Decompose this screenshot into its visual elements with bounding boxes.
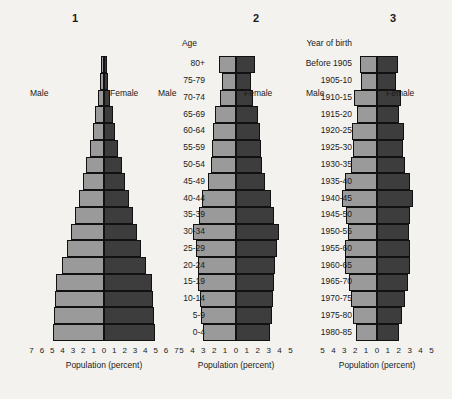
pyramid-2-row-30-34 bbox=[186, 224, 338, 241]
pyramid-2-row-20-24 bbox=[186, 257, 338, 274]
bar-female-20-24 bbox=[104, 257, 146, 274]
bar-female-50-54 bbox=[104, 157, 122, 174]
pyramid-2-row-25-29 bbox=[186, 240, 338, 257]
pyramid-panel-1: 1 Male Female 765432101234567 Population… bbox=[0, 0, 186, 399]
pyramid-1-row-40-44 bbox=[0, 190, 186, 207]
age-group-label-11: 25-29 bbox=[183, 243, 205, 253]
bar-male-25-29 bbox=[67, 240, 104, 257]
bar-female-20-24 bbox=[377, 257, 410, 274]
panel-2-title: 2 bbox=[180, 12, 332, 24]
pyramid-2-tick-7: 2 bbox=[253, 346, 262, 355]
pyramid-1-tick-1: 6 bbox=[37, 346, 46, 355]
pyramid-3-tick-6: 1 bbox=[383, 346, 392, 355]
bar-female-10-14 bbox=[377, 291, 405, 308]
year-of-birth-label-13: 1965-70 bbox=[321, 276, 352, 286]
bar-male-15-19 bbox=[56, 274, 104, 291]
pyramid-3-tick-1: 4 bbox=[329, 346, 338, 355]
pyramid-2-tick-6: 1 bbox=[242, 346, 251, 355]
pyramid-1-tick-10: 3 bbox=[130, 346, 139, 355]
panel-1-title: 1 bbox=[0, 12, 168, 24]
pyramid-2-tick-1: 4 bbox=[188, 346, 197, 355]
year-of-birth-label-12: 1960-65 bbox=[321, 260, 352, 270]
pyramid-1-row-50-54 bbox=[0, 157, 186, 174]
bar-female-35-39 bbox=[104, 207, 133, 224]
pyramid-1-tick-9: 2 bbox=[120, 346, 129, 355]
bar-female-60-64 bbox=[377, 123, 404, 140]
pyramid-1-tick-7: 0 bbox=[99, 346, 108, 355]
pyramid-1-axis-ticks: 765432101234567 bbox=[27, 346, 181, 355]
bar-female-20-24 bbox=[236, 257, 275, 274]
age-group-label-2: 70-74 bbox=[183, 92, 205, 102]
pyramid-3-row-65-69 bbox=[338, 106, 452, 123]
bar-female-25-29 bbox=[104, 240, 141, 257]
pyramid-1-tick-6: 1 bbox=[89, 346, 98, 355]
bar-male-15-19 bbox=[349, 274, 377, 291]
age-group-label-8: 40-44 bbox=[183, 193, 205, 203]
bar-male-45-49 bbox=[208, 173, 236, 190]
pyramid-3-row-30-34 bbox=[338, 224, 452, 241]
pyramid-3-row-15-19 bbox=[338, 274, 452, 291]
bar-male-45-49 bbox=[83, 173, 104, 190]
pyramid-1-tick-2: 5 bbox=[48, 346, 57, 355]
bar-male-10-14 bbox=[55, 291, 104, 308]
bar-female-5-9 bbox=[104, 307, 154, 324]
pyramid-3-plot bbox=[338, 56, 452, 341]
pyramid-3-tick-0: 5 bbox=[318, 346, 327, 355]
age-group-label-15: 5-9 bbox=[193, 310, 205, 320]
pyramid-1-row-10-14 bbox=[0, 291, 186, 308]
bar-female-0-4 bbox=[377, 324, 399, 341]
bar-female-60-64 bbox=[104, 123, 115, 140]
pyramid-1-row-35-39 bbox=[0, 207, 186, 224]
bar-female-55-59 bbox=[104, 140, 118, 157]
age-group-label-16: 0-4 bbox=[193, 327, 205, 337]
year-of-birth-label-8: 1940-45 bbox=[321, 193, 352, 203]
year-of-birth-label-11: 1955-60 bbox=[321, 243, 352, 253]
pyramid-3-tick-9: 4 bbox=[416, 346, 425, 355]
age-column-header: Age bbox=[182, 38, 197, 48]
pyramid-3-tick-2: 3 bbox=[340, 346, 349, 355]
pyramid-1-male-label: Male bbox=[30, 88, 48, 98]
pyramid-1-row-60-64 bbox=[0, 123, 186, 140]
pyramid-1-row-15-19 bbox=[0, 274, 186, 291]
pyramid-2-tick-3: 2 bbox=[210, 346, 219, 355]
bar-female-65-69 bbox=[377, 106, 399, 123]
panel-3-title: 3 bbox=[336, 12, 450, 24]
bar-male-55-59 bbox=[212, 140, 236, 157]
pyramid-3-row-0-4 bbox=[338, 324, 452, 341]
bar-female-35-39 bbox=[377, 207, 410, 224]
bar-female-25-29 bbox=[236, 240, 277, 257]
age-group-label-6: 50-54 bbox=[183, 159, 205, 169]
pyramid-1-row-20-24 bbox=[0, 257, 186, 274]
pyramid-1-row-5-9 bbox=[0, 307, 186, 324]
pyramid-2-tick-4: 1 bbox=[221, 346, 230, 355]
bar-female-0-4 bbox=[104, 324, 155, 341]
pyramid-3-row-25-29 bbox=[338, 240, 452, 257]
pyramid-1-row-65-69 bbox=[0, 106, 186, 123]
year-of-birth-label-9: 1945-50 bbox=[321, 209, 352, 219]
pyramid-3-tick-5: 0 bbox=[372, 346, 381, 355]
bar-male-75-79 bbox=[222, 73, 236, 90]
pyramid-3-tick-10: 5 bbox=[427, 346, 436, 355]
bar-female-35-39 bbox=[236, 207, 274, 224]
pyramid-2-tick-9: 4 bbox=[275, 346, 284, 355]
age-group-label-3: 65-69 bbox=[183, 109, 205, 119]
pyramid-2-female-label: Female bbox=[244, 88, 272, 98]
bar-female-40-44 bbox=[104, 190, 129, 207]
pyramid-1-row-25-29 bbox=[0, 240, 186, 257]
bar-female-75-79 bbox=[104, 73, 108, 90]
bar-female-10-14 bbox=[236, 291, 273, 308]
pyramid-3-row-80+ bbox=[338, 56, 452, 73]
pyramid-2-row-15-19 bbox=[186, 274, 338, 291]
pyramid-2-row-50-54 bbox=[186, 157, 338, 174]
bar-female-80+ bbox=[236, 56, 255, 73]
bar-male-65-69 bbox=[357, 106, 377, 123]
pyramid-2-tick-5: 0 bbox=[231, 346, 240, 355]
bar-female-50-54 bbox=[377, 157, 405, 174]
bar-female-60-64 bbox=[236, 123, 260, 140]
bar-female-45-49 bbox=[377, 173, 410, 190]
bar-female-30-34 bbox=[377, 224, 409, 241]
pyramid-2-axis-caption: Population (percent) bbox=[176, 360, 296, 370]
year-of-birth-label-4: 1920-25 bbox=[321, 125, 352, 135]
bar-male-5-9 bbox=[54, 307, 104, 324]
pyramid-3-row-60-64 bbox=[338, 123, 452, 140]
